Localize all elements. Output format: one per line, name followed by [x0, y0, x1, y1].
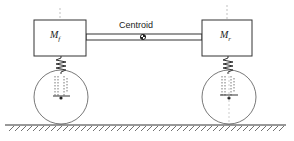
front-wheel: [34, 70, 88, 124]
ground: [5, 125, 286, 131]
rear-spring-icon: [223, 56, 233, 74]
centroid-marker-icon: [140, 34, 145, 39]
front-damper-icon: [55, 76, 67, 96]
suspension-diagram: Centroid Mf Mr: [0, 0, 294, 141]
centroid-label: Centroid: [119, 20, 153, 30]
front-mass-box: Mf: [34, 8, 86, 56]
rear-mass-box: Mr: [202, 5, 252, 56]
front-spring-icon: [56, 56, 66, 74]
rear-wheel: [202, 70, 256, 124]
rear-damper-icon: [222, 76, 234, 96]
